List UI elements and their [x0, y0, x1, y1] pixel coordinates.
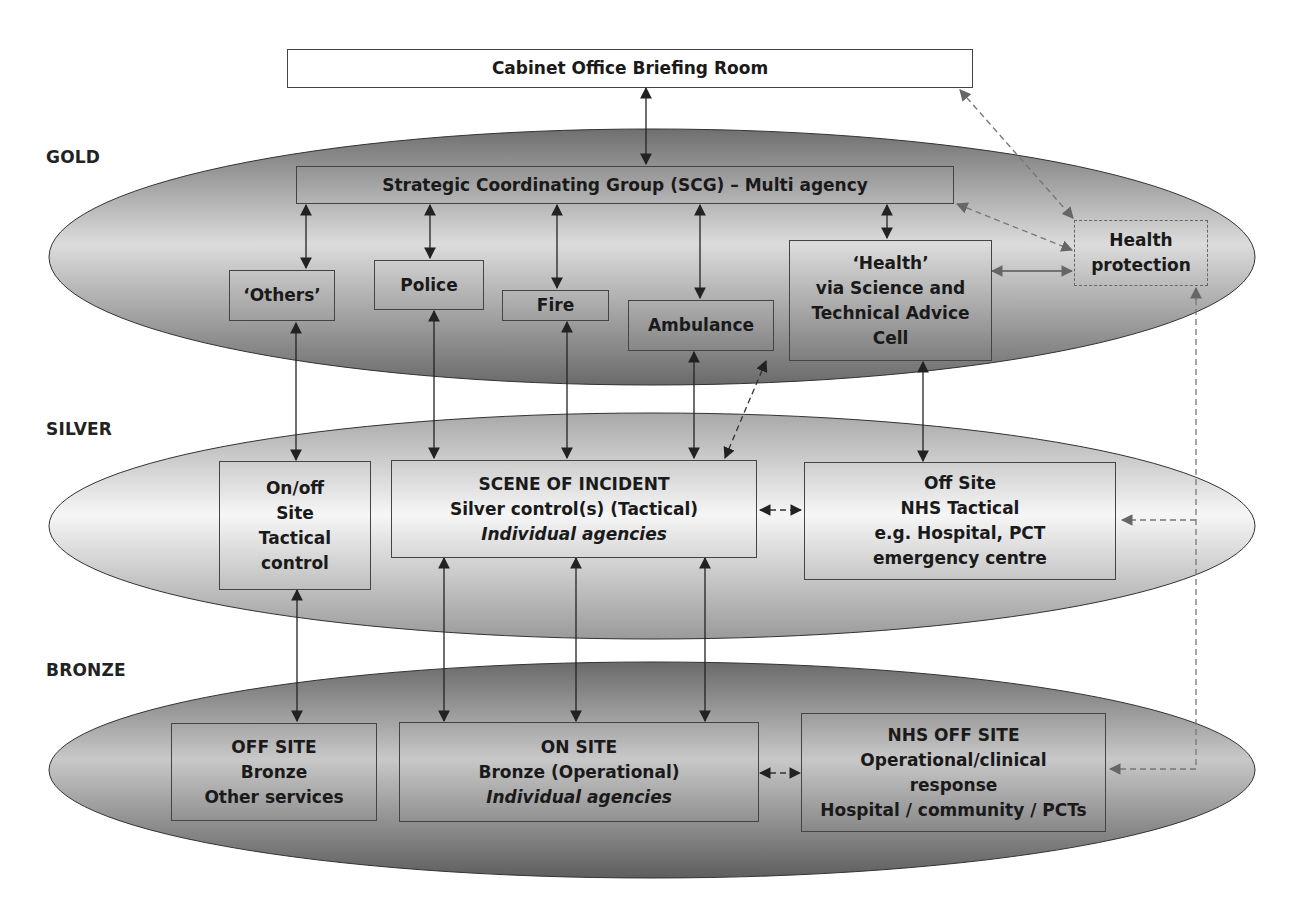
onoff-line-1: On/off [266, 476, 324, 501]
cabinet-office-label: Cabinet Office Briefing Room [492, 56, 768, 81]
scene-line-1: SCENE OF INCIDENT [479, 472, 670, 497]
others-box: ‘Others’ [229, 270, 335, 321]
scene-line-3: Individual agencies [481, 522, 667, 547]
offsite-bronze-line-1: OFF SITE [231, 735, 316, 760]
health-stac-box: ‘Health’ via Science and Technical Advic… [789, 240, 992, 361]
fire-label: Fire [537, 293, 574, 318]
offsite-nhs-line-4: emergency centre [873, 546, 1047, 571]
onsite-line-2: Bronze (Operational) [478, 760, 679, 785]
nhs-offsite-line-3: response [910, 773, 998, 798]
on-site-bronze-box: ON SITE Bronze (Operational) Individual … [399, 722, 759, 822]
health-protection-line-2: protection [1091, 253, 1191, 278]
health-line-1: ‘Health’ [852, 251, 928, 276]
scene-of-incident-box: SCENE OF INCIDENT Silver control(s) (Tac… [391, 460, 757, 558]
scg-label: Strategic Coordinating Group (SCG) – Mul… [382, 173, 868, 198]
onoff-line-3: Tactical [259, 526, 331, 551]
onoff-line-4: control [261, 551, 329, 576]
ambulance-label: Ambulance [648, 313, 754, 338]
nhs-off-site-box: NHS OFF SITE Operational/clinical respon… [801, 713, 1106, 832]
onoff-site-tactical-box: On/off Site Tactical control [219, 461, 371, 590]
fire-box: Fire [502, 290, 609, 321]
offsite-nhs-line-1: Off Site [924, 471, 996, 496]
tier-label-bronze: BRONZE [46, 660, 126, 680]
tier-label-gold: GOLD [46, 147, 100, 167]
health-protection-line-1: Health [1109, 228, 1172, 253]
health-protection-box: Health protection [1074, 220, 1208, 286]
off-site-nhs-tactical-box: Off Site NHS Tactical e.g. Hospital, PCT… [804, 462, 1116, 580]
nhs-offsite-line-1: NHS OFF SITE [888, 723, 1020, 748]
offsite-bronze-line-2: Bronze [241, 760, 308, 785]
police-label: Police [400, 273, 457, 298]
nhs-offsite-line-2: Operational/clinical [860, 748, 1046, 773]
cabinet-office-briefing-room-box: Cabinet Office Briefing Room [287, 49, 973, 88]
others-label: ‘Others’ [243, 283, 321, 308]
health-line-4: Cell [873, 326, 909, 351]
ambulance-box: Ambulance [628, 300, 774, 351]
onsite-line-3: Individual agencies [486, 785, 672, 810]
police-box: Police [374, 260, 484, 310]
onoff-line-2: Site [276, 501, 314, 526]
offsite-bronze-line-3: Other services [204, 785, 343, 810]
onsite-line-1: ON SITE [541, 735, 617, 760]
off-site-bronze-box: OFF SITE Bronze Other services [171, 723, 377, 821]
health-line-3: Technical Advice [811, 301, 969, 326]
nhs-offsite-line-4: Hospital / community / PCTs [820, 798, 1086, 823]
tier-label-silver: SILVER [46, 419, 112, 439]
offsite-nhs-line-3: e.g. Hospital, PCT [875, 521, 1046, 546]
health-line-2: via Science and [816, 276, 965, 301]
offsite-nhs-line-2: NHS Tactical [901, 496, 1020, 521]
scene-line-2: Silver control(s) (Tactical) [450, 497, 698, 522]
scg-box: Strategic Coordinating Group (SCG) – Mul… [296, 166, 954, 204]
